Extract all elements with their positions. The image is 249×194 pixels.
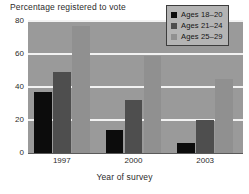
bar (144, 56, 162, 153)
bar (196, 120, 214, 153)
legend-swatch-icon (171, 12, 177, 18)
gridline (28, 53, 243, 54)
legend-item: Ages 18–20 (171, 9, 223, 20)
chart-legend: Ages 18–20 Ages 21–24 Ages 25–29 (166, 5, 229, 46)
x-axis-tick-label: 2000 (114, 157, 154, 165)
bar (72, 26, 90, 153)
x-axis-tick-label: 2003 (185, 157, 225, 165)
legend-swatch-icon (171, 23, 177, 29)
legend-item: Ages 25–29 (171, 31, 223, 42)
y-axis-tick-label: 80 (0, 17, 24, 25)
x-axis-label: Year of survey (0, 172, 249, 182)
y-axis-tick-label: 40 (0, 83, 24, 91)
y-axis-tick-label: 0 (0, 149, 24, 157)
chart-title: Percentage registered to vote (10, 2, 126, 12)
x-axis-line (28, 153, 243, 154)
legend-swatch-icon (171, 34, 177, 40)
bar (106, 130, 124, 153)
chart-figure: Percentage registered to vote 020406080 … (0, 0, 249, 194)
y-axis-tick-label: 20 (0, 116, 24, 124)
bar (34, 92, 52, 153)
bar (125, 100, 143, 153)
legend-item-label: Ages 25–29 (181, 32, 223, 41)
legend-item: Ages 21–24 (171, 20, 223, 31)
bar (215, 79, 233, 153)
bar (53, 72, 71, 153)
y-axis-tick-label: 60 (0, 50, 24, 58)
x-axis-tick-label: 1997 (42, 157, 82, 165)
legend-item-label: Ages 18–20 (181, 10, 223, 19)
legend-item-label: Ages 21–24 (181, 21, 223, 30)
